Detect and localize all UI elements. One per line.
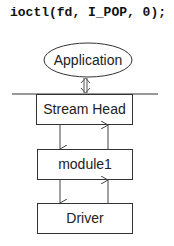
driver-node: Driver <box>38 204 133 234</box>
application-node: Application <box>44 43 132 77</box>
application-label: Application <box>54 52 123 68</box>
stream-head-label: Stream Head <box>43 101 125 117</box>
driver-label: Driver <box>66 210 104 226</box>
bidirectional-arrow <box>81 78 90 93</box>
module1-node: module1 <box>38 150 133 180</box>
module1-label: module1 <box>58 156 112 172</box>
stream-head-node: Stream Head <box>37 95 133 125</box>
stream-diagram: Application Stream Head module1 Driver <box>0 0 174 246</box>
